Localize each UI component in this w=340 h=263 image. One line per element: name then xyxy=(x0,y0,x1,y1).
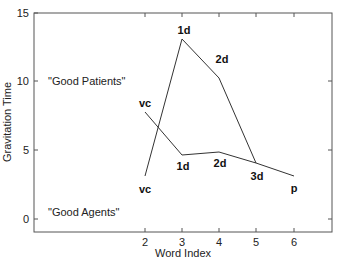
plot-area xyxy=(34,13,332,232)
x-axis-label: Word Index xyxy=(155,247,212,259)
x-tick-label: 2 xyxy=(142,236,148,248)
y-tick-label: 5 xyxy=(23,144,29,156)
annotation-good-agents: "Good Agents" xyxy=(48,206,120,218)
x-ticks xyxy=(145,13,294,232)
y-ticks xyxy=(34,13,332,219)
series-good-patients xyxy=(145,39,256,176)
x-tick-label: 5 xyxy=(253,236,259,248)
chart: 0 5 10 15 2 3 4 5 6 Word Index Gravitati… xyxy=(0,0,340,263)
point-label: 1d xyxy=(177,160,190,172)
y-tick-label: 15 xyxy=(17,7,29,19)
annotation-good-patients: "Good Patients" xyxy=(48,75,126,87)
x-tick-label: 4 xyxy=(216,236,222,248)
point-label: p xyxy=(291,182,298,194)
point-label: vc xyxy=(139,183,151,195)
point-label: 2d xyxy=(216,53,229,65)
y-axis-label: Gravitation Time xyxy=(1,82,13,162)
point-label: 2d xyxy=(214,157,227,169)
y-tick-label: 10 xyxy=(17,75,29,87)
y-tick-label: 0 xyxy=(23,213,29,225)
x-tick-label: 6 xyxy=(291,236,297,248)
point-label: vc xyxy=(139,97,151,109)
point-label: 1d xyxy=(178,24,191,36)
point-label: 3d xyxy=(251,170,264,182)
